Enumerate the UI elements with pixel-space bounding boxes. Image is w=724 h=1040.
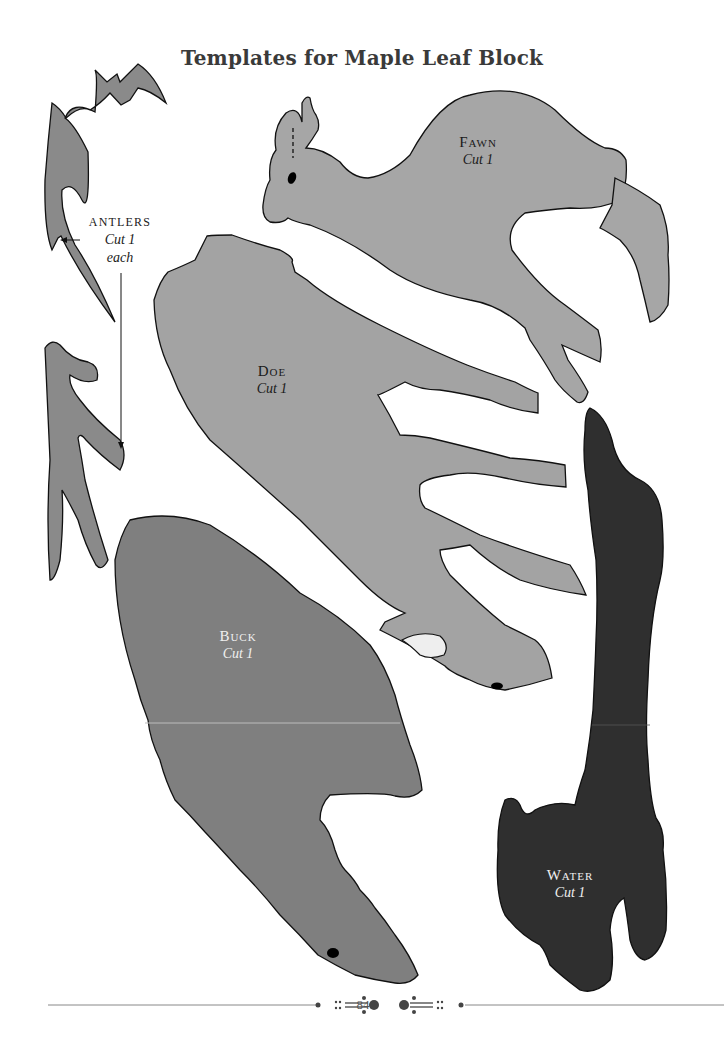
fawn-label: Fawn Cut 1: [438, 133, 518, 169]
buck-name: Buck: [198, 627, 278, 645]
fawn-name: Fawn: [438, 133, 518, 151]
fawn-instruction: Cut 1: [438, 151, 518, 169]
antler-bottom-shape: [45, 342, 124, 580]
water-shape: [497, 408, 666, 991]
buck-instruction: Cut 1: [198, 645, 278, 663]
doe-eye: [491, 683, 503, 690]
water-instruction: Cut 1: [530, 884, 610, 902]
doe-instruction: Cut 1: [232, 380, 312, 398]
antlers-label: Antlers Cut 1 each: [80, 213, 160, 267]
footer-ornament: [48, 996, 724, 1014]
page-number: 84: [352, 997, 374, 1013]
template-shapes: [0, 0, 724, 1040]
antlers-extra: each: [80, 249, 160, 267]
doe-label: Doe Cut 1: [232, 362, 312, 398]
buck-label: Buck Cut 1: [198, 627, 278, 663]
doe-name: Doe: [232, 362, 312, 380]
doe-ear-opening: [402, 634, 446, 658]
buck-eye: [327, 948, 339, 958]
water-label: Water Cut 1: [530, 866, 610, 902]
antler-top-shape: [45, 64, 166, 322]
water-name: Water: [530, 866, 610, 884]
antlers-name: Antlers: [80, 213, 160, 231]
antlers-instruction: Cut 1: [80, 231, 160, 249]
